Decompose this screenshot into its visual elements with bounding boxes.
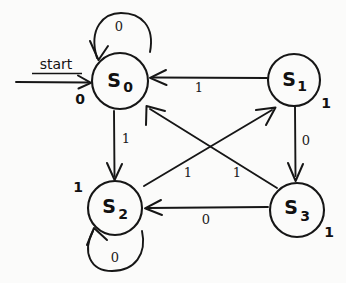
start-label: start [40,56,73,72]
transition-s1-s0-label: 1 [195,80,203,95]
start-arrow [16,76,91,89]
transition-s1-s0-shaft [153,78,267,79]
transition-s0-s2-label: 1 [122,131,130,146]
transition-s2-s1-label: 1 [233,165,241,180]
transition-s0-s0-label: 0 [115,19,123,34]
state-s1-output: 1 [321,95,331,111]
transition-s3-s0-shaft [150,109,277,188]
state-s2-subscript: 2 [118,206,128,222]
transition-s1-s0 [150,70,267,85]
transition-s2-s1-shaft [144,110,272,186]
transition-s3-s2-shaft [148,207,268,208]
state-s3-output: 1 [324,224,334,240]
state-s2-label: S [102,195,116,217]
transition-s0-s2-shaft [114,111,115,176]
transition-s1-s3-label: 0 [302,133,310,148]
state-s1-subscript: 1 [297,78,307,94]
state-s2-output: 1 [73,179,83,195]
fsm-canvas: start 0 1 1 0 1 [0,0,346,283]
state-s3-subscript: 3 [300,208,310,224]
transition-s1-s3-shaft [295,107,296,176]
state-s0-label: S [107,69,121,91]
state-node-s1[interactable]: S 1 [268,54,320,106]
state-node-s2[interactable]: S 2 [88,181,142,235]
state-node-s0[interactable]: S 0 [92,53,148,109]
state-s0-subscript: 0 [123,79,133,95]
state-machine-diagram: start 0 1 1 0 1 [0,0,346,283]
state-node-s3[interactable]: S 3 [270,183,324,237]
transition-s0-s2 [107,111,122,180]
transition-s2-s2-head [87,228,107,245]
transition-s1-s3 [288,107,303,181]
transition-s2-s2-label: 0 [111,250,119,265]
start-arrow-shaft [16,82,88,83]
transition-s3-s2-label: 0 [202,212,210,227]
state-s3-label: S [284,196,298,218]
transition-s3-s0-label: 1 [184,165,192,180]
state-s0-output: 0 [75,91,85,107]
state-s1-label: S [282,68,296,90]
